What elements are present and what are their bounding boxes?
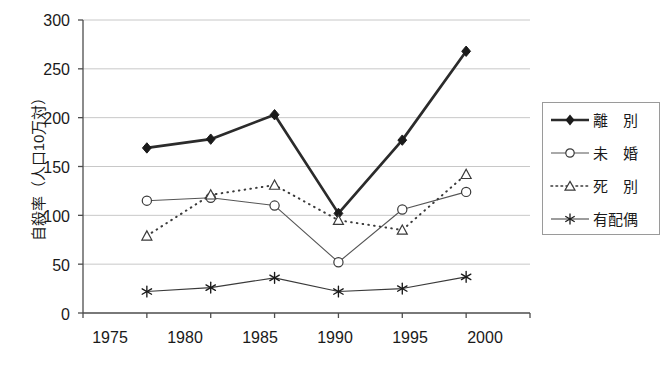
legend-item-divorced: 離 別	[543, 103, 659, 136]
open-triangle-icon	[549, 176, 591, 196]
legend-label-widowed: 死 別	[593, 175, 638, 196]
filled-diamond-icon	[549, 110, 591, 130]
asterisk-icon	[549, 209, 591, 229]
legend-label-divorced: 離 別	[593, 109, 638, 130]
chart-legend: 離 別 未 婚 死 別 有配	[542, 102, 660, 235]
open-circle-icon	[549, 143, 591, 163]
legend-label-unmarried: 未 婚	[593, 142, 638, 163]
legend-item-widowed: 死 別	[543, 169, 659, 202]
legend-label-married: 有配偶	[593, 208, 638, 229]
legend-item-unmarried: 未 婚	[543, 136, 659, 169]
legend-item-married: 有配偶	[543, 202, 659, 235]
suicide-rate-line-chart: 自殺率（人口10万対） 300 250 200 150 100 50 0 197…	[0, 0, 668, 370]
axis-ticks	[78, 20, 530, 318]
data-series	[142, 46, 471, 297]
